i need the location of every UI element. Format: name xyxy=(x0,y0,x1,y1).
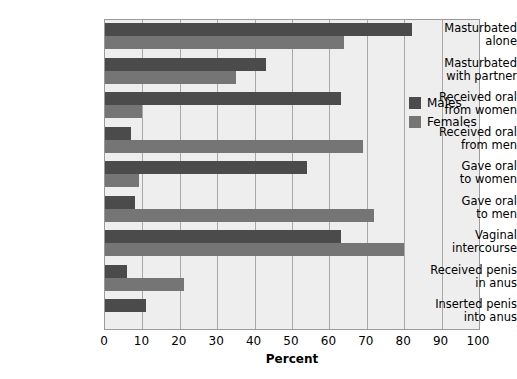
bar-females-5 xyxy=(105,209,374,222)
legend-swatch-males-icon xyxy=(409,97,421,109)
bar-chart: MasturbatedaloneMasturbatedwith partnerR… xyxy=(0,0,517,379)
x-tick-label-10: 10 xyxy=(121,334,161,348)
bar-males-4 xyxy=(105,161,307,174)
bar-females-3 xyxy=(105,140,363,153)
bar-males-0 xyxy=(105,23,412,36)
x-axis-ticks: 0102030405060708090100 xyxy=(0,334,517,352)
gridline xyxy=(367,20,368,329)
bar-females-4 xyxy=(105,174,139,187)
bar-males-8 xyxy=(105,299,146,312)
x-tick-label-0: 0 xyxy=(84,334,124,348)
bar-males-6 xyxy=(105,230,341,243)
legend-swatch-females-icon xyxy=(409,116,421,128)
bar-females-6 xyxy=(105,243,404,256)
x-tick-label-90: 90 xyxy=(421,334,461,348)
category-label-8: Inserted penisinto anus xyxy=(417,298,517,324)
bar-males-5 xyxy=(105,196,135,209)
x-tick-label-30: 30 xyxy=(196,334,236,348)
bar-females-7 xyxy=(105,278,184,291)
bar-males-3 xyxy=(105,127,131,140)
legend-label-females: Females xyxy=(427,115,477,129)
gridline xyxy=(329,20,330,329)
bar-females-1 xyxy=(105,71,236,84)
legend-item-females: Females xyxy=(409,114,477,130)
legend-label-males: Males xyxy=(427,96,462,110)
category-label-4: Gave oralto women xyxy=(417,160,517,186)
legend: Males Females xyxy=(409,95,477,133)
x-tick-label-70: 70 xyxy=(346,334,386,348)
bar-females-2 xyxy=(105,105,142,118)
x-tick-label-100: 100 xyxy=(458,334,498,348)
gridline xyxy=(404,20,405,329)
x-tick-label-80: 80 xyxy=(383,334,423,348)
x-tick-label-20: 20 xyxy=(159,334,199,348)
x-tick-label-50: 50 xyxy=(271,334,311,348)
category-label-1: Masturbatedwith partner xyxy=(417,57,517,83)
category-label-7: Received penisin anus xyxy=(417,264,517,290)
category-label-0: Masturbatedalone xyxy=(417,22,517,48)
bar-females-0 xyxy=(105,36,344,49)
legend-item-males: Males xyxy=(409,95,477,111)
bar-males-2 xyxy=(105,92,341,105)
x-axis-title: Percent xyxy=(104,352,480,366)
bar-males-7 xyxy=(105,265,127,278)
gridline xyxy=(292,20,293,329)
x-tick-label-40: 40 xyxy=(234,334,274,348)
category-label-6: Vaginalintercourse xyxy=(417,229,517,255)
category-label-5: Gave oralto men xyxy=(417,195,517,221)
x-tick-label-60: 60 xyxy=(308,334,348,348)
bar-males-1 xyxy=(105,58,266,71)
